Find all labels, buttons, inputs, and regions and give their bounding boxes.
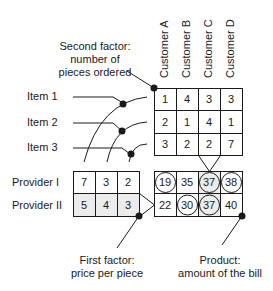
- row-pointer-triangle: [140, 194, 155, 217]
- second-factor-line-1: Second factor:: [50, 40, 140, 53]
- item-3-dot: [128, 151, 135, 158]
- row-label-provider-2: Provider II: [12, 199, 62, 212]
- quantity-cell: 1: [176, 116, 198, 128]
- quantity-cell: 4: [198, 116, 220, 128]
- bill-cell: 38: [220, 176, 242, 188]
- product-dot: [239, 213, 246, 220]
- second-factor-line-2: number of: [50, 53, 140, 66]
- quantity-cell: 1: [154, 93, 176, 105]
- quantity-cell: 2: [198, 138, 220, 150]
- quantity-cell: 3: [220, 93, 242, 105]
- quantity-cell: 3: [154, 138, 176, 150]
- bill-cell: 19: [154, 176, 176, 188]
- item-1-dot: [120, 101, 127, 108]
- bill-cell: 35: [176, 176, 198, 188]
- row-label-item-2: Item 2: [27, 116, 58, 129]
- bill-cell: 37: [198, 199, 220, 211]
- first-factor-label: First factor: price per piece: [62, 254, 152, 280]
- first-factor-dot: [136, 213, 143, 220]
- row-label-item-1: Item 1: [27, 90, 58, 103]
- first-factor-line-2: price per piece: [62, 267, 152, 280]
- product-line-1: Product:: [170, 254, 270, 267]
- price-cell: 5: [73, 199, 95, 211]
- product-label: Product: amount of the bill: [170, 254, 270, 280]
- item-leader-lines: [73, 97, 147, 162]
- quantity-cell: 3: [198, 93, 220, 105]
- bill-cell: 40: [220, 199, 242, 211]
- column-header-customer-b: Customer B: [180, 20, 193, 78]
- price-cell: 2: [117, 176, 139, 188]
- first-factor-line-1: First factor:: [62, 254, 152, 267]
- product-line-2: amount of the bill: [170, 267, 270, 280]
- quantity-cell: 2: [154, 116, 176, 128]
- quantity-cell: 2: [176, 138, 198, 150]
- price-cell: 7: [73, 176, 95, 188]
- bill-cell: 30: [176, 199, 198, 211]
- quantity-cell: 1: [220, 116, 242, 128]
- second-factor-dot: [151, 85, 158, 92]
- quantity-cell: 7: [220, 138, 242, 150]
- bill-cell: 37: [198, 176, 220, 188]
- column-pointer-triangle: [199, 156, 221, 172]
- row-label-item-3: Item 3: [27, 141, 58, 154]
- price-cell: 3: [117, 199, 139, 211]
- column-header-customer-a: Customer A: [158, 21, 171, 78]
- column-header-customer-d: Customer D: [224, 19, 237, 78]
- second-factor-label: Second factor: number of pieces ordered: [50, 40, 140, 79]
- bill-cell: 22: [154, 199, 176, 211]
- quantity-cell: 4: [176, 93, 198, 105]
- second-factor-line-3: pieces ordered: [50, 66, 140, 79]
- price-cell: 4: [95, 199, 117, 211]
- column-header-customer-c: Customer C: [202, 19, 215, 78]
- row-label-provider-1: Provider I: [12, 176, 59, 189]
- item-2-dot: [119, 128, 126, 135]
- price-cell: 3: [95, 176, 117, 188]
